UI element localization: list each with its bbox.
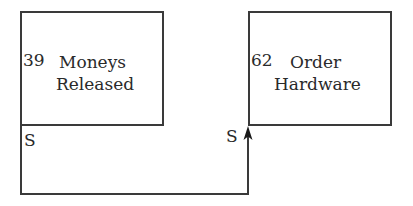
from-start-label: S — [24, 130, 36, 150]
activity-id: 62 — [251, 50, 273, 70]
activity-id: 39 — [23, 50, 45, 70]
activity-name-line1: Moneys — [59, 51, 126, 73]
to-start-label: S — [226, 126, 238, 146]
activity-name-line1: Order — [290, 51, 341, 73]
activity-node-order-hardware[interactable]: 62 Order Hardware — [248, 11, 392, 126]
start-to-start-connector — [21, 125, 248, 194]
activity-name-line2: Hardware — [274, 73, 361, 95]
activity-node-moneys-released[interactable]: 39 Moneys Released — [20, 11, 164, 126]
activity-name-line2: Released — [56, 73, 134, 95]
